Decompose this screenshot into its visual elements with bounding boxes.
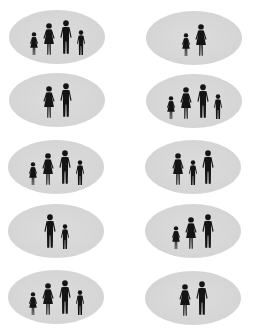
boy-icon — [213, 94, 223, 120]
family-oval-6[interactable] — [145, 140, 241, 194]
girl-icon — [166, 96, 176, 120]
girl-icon — [181, 33, 191, 57]
family-members — [28, 150, 85, 186]
family-oval-2[interactable] — [146, 11, 242, 65]
boy-icon — [76, 30, 86, 56]
family-members — [28, 280, 85, 316]
man-icon — [196, 84, 210, 120]
man-icon — [59, 20, 73, 56]
family-members — [178, 281, 209, 317]
family-oval-4[interactable] — [146, 74, 242, 128]
family-members — [166, 84, 223, 120]
woman-icon — [41, 153, 55, 186]
family-oval-8[interactable] — [145, 204, 241, 258]
man-icon — [58, 150, 72, 186]
woman-icon — [42, 23, 56, 56]
boy-icon — [60, 224, 70, 250]
family-grid — [0, 0, 256, 333]
family-oval-5[interactable] — [8, 140, 104, 194]
girl-icon — [171, 226, 181, 250]
man-icon — [58, 280, 72, 316]
woman-icon — [171, 153, 185, 186]
family-oval-1[interactable] — [9, 10, 105, 64]
boy-icon — [75, 290, 85, 316]
man-icon — [201, 214, 215, 250]
family-members — [29, 20, 86, 56]
girl-icon — [28, 162, 38, 186]
man-icon — [59, 83, 73, 119]
family-members — [42, 83, 73, 119]
woman-icon — [179, 87, 193, 120]
family-oval-9[interactable] — [8, 270, 104, 324]
woman-icon — [194, 24, 208, 57]
girl-icon — [28, 292, 38, 316]
family-members — [171, 150, 215, 186]
man-icon — [43, 214, 57, 250]
family-oval-10[interactable] — [145, 271, 241, 325]
boy-icon — [188, 160, 198, 186]
woman-icon — [184, 217, 198, 250]
man-icon — [201, 150, 215, 186]
family-members — [171, 214, 215, 250]
family-members — [43, 214, 70, 250]
girl-icon — [29, 32, 39, 56]
family-oval-7[interactable] — [8, 204, 104, 258]
boy-icon — [75, 160, 85, 186]
family-members — [181, 24, 208, 57]
woman-icon — [41, 283, 55, 316]
family-oval-3[interactable] — [9, 73, 105, 127]
man-icon — [195, 281, 209, 317]
woman-icon — [42, 86, 56, 119]
woman-icon — [178, 284, 192, 317]
